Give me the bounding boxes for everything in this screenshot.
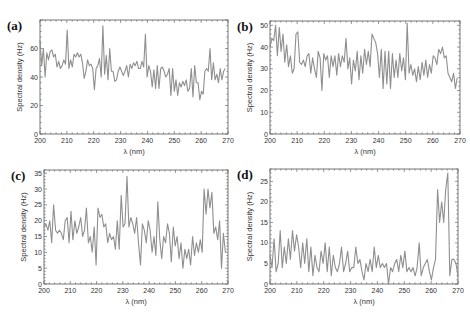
x-tick-label: 270 [222,137,234,144]
x-tick-label: 210 [64,287,76,294]
panel-a: 2002102202302402502602700204060λ (nm)Spe… [7,18,234,156]
y-tick-label: 10 [260,239,268,246]
x-tick-label: 240 [143,287,155,294]
x-tick-label: 200 [264,287,276,294]
x-tick-label: 220 [318,137,330,144]
y-tick-label: 25 [260,178,268,185]
panel-label: (c) [11,168,25,183]
y-tick-label: 30 [260,65,268,72]
x-tick-label: 240 [142,137,154,144]
x-tick-label: 260 [425,287,437,294]
spectral-density-line [44,176,225,268]
x-tick-label: 210 [291,287,303,294]
x-tick-label: 270 [222,287,234,294]
x-tick-label: 220 [91,287,103,294]
x-tick-label: 250 [170,287,182,294]
x-tick-label: 250 [168,137,180,144]
x-tick-label: 250 [398,287,410,294]
y-tick-label: 0 [38,281,42,288]
plot-frame [40,20,228,134]
y-tick-label: 40 [260,44,268,51]
y-tick-label: 30 [34,186,42,193]
x-axis-label: λ (nm) [123,147,145,156]
x-tick-label: 220 [318,287,330,294]
x-axis-label: λ (nm) [354,147,376,156]
y-tick-label: 20 [260,87,268,94]
x-tick-label: 200 [34,137,46,144]
x-tick-label: 220 [88,137,100,144]
x-tick-label: 260 [196,287,208,294]
y-axis-label: Spectral density (Hz) [15,42,24,112]
figure-four-panel-spectra: 2002102202302402502602700204060λ (nm)Spe… [0,0,470,317]
x-tick-label: 240 [372,287,384,294]
x-tick-label: 230 [117,287,129,294]
plot-frame [270,169,458,284]
y-tick-label: 20 [34,217,42,224]
y-tick-label: 0 [264,131,268,138]
x-tick-label: 240 [373,137,385,144]
spectral-density-line [270,173,458,284]
x-tick-label: 270 [454,137,466,144]
y-tick-label: 40 [30,74,38,81]
x-tick-label: 260 [195,137,207,144]
y-tick-label: 10 [34,249,42,256]
panel-c: 20021022023024025026027005101520253035λ … [11,168,234,306]
y-tick-label: 20 [260,198,268,205]
y-tick-label: 0 [34,131,38,138]
x-tick-label: 260 [427,137,439,144]
spectral-density-line [40,26,225,100]
panel-label: (d) [237,167,253,182]
y-tick-label: 20 [30,102,38,109]
x-tick-label: 210 [291,137,303,144]
panel-d: 2002102202302402502602700510152025λ (nm)… [237,167,464,306]
y-axis-label: Spectral density (Hz) [19,192,28,262]
y-tick-label: 35 [34,170,42,177]
y-tick-label: 15 [34,233,42,240]
x-tick-label: 210 [61,137,73,144]
x-tick-label: 230 [115,137,127,144]
panel-label: (b) [237,19,253,34]
x-tick-label: 230 [346,137,358,144]
x-tick-label: 230 [345,287,357,294]
y-tick-label: 15 [260,219,268,226]
x-tick-label: 200 [38,287,50,294]
y-axis-label: Spectral density (Hz) [245,42,254,112]
y-tick-label: 25 [34,201,42,208]
spectral-density-line [270,23,457,90]
x-axis-label: λ (nm) [353,297,375,306]
y-tick-label: 0 [264,281,268,288]
panel-b: 20021022023024025026027001020304050λ (nm… [237,19,466,156]
x-tick-label: 270 [452,287,464,294]
panel-label: (a) [7,18,22,33]
y-tick-label: 60 [30,45,38,52]
y-tick-label: 5 [264,260,268,267]
x-tick-label: 250 [400,137,412,144]
x-tick-label: 200 [264,137,276,144]
y-tick-label: 10 [260,109,268,116]
y-tick-label: 5 [38,265,42,272]
x-axis-label: λ (nm) [125,297,147,306]
y-axis-label: Spectral density (Hz) [245,191,254,261]
y-tick-label: 50 [260,22,268,29]
